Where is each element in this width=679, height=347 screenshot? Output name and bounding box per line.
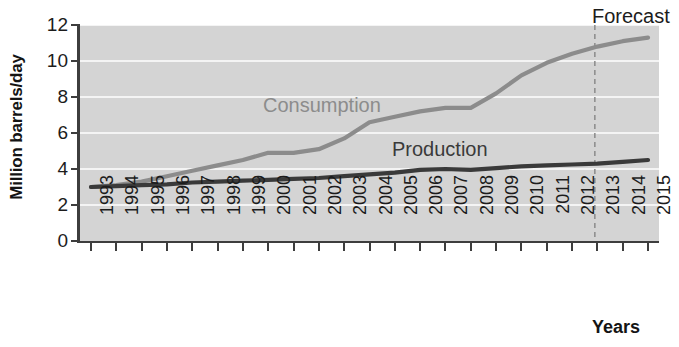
x-tick-mark [166, 243, 168, 251]
x-tick-label: 2002 [326, 175, 344, 255]
x-tick-label: 1993 [98, 175, 116, 255]
y-tick-label: 8 [44, 87, 68, 106]
x-tick-mark [444, 243, 446, 251]
x-tick-label: 1995 [149, 175, 167, 255]
x-tick-mark [369, 243, 371, 251]
x-tick-mark [191, 243, 193, 251]
x-tick-label: 2000 [275, 175, 293, 255]
x-tick-mark [90, 243, 92, 251]
x-tick-mark [217, 243, 219, 251]
x-tick-label: 2014 [630, 175, 648, 255]
x-tick-label: 2011 [554, 175, 572, 255]
x-tick-label: 2001 [301, 175, 319, 255]
x-tick-mark [267, 243, 269, 251]
x-tick-label: 1994 [123, 175, 141, 255]
x-tick-mark [318, 243, 320, 251]
x-tick-mark [242, 243, 244, 251]
x-tick-label: 2007 [452, 175, 470, 255]
y-tick-label: 4 [44, 159, 68, 178]
x-tick-mark [546, 243, 548, 251]
x-tick-mark [141, 243, 143, 251]
x-tick-mark [394, 243, 396, 251]
x-tick-label: 2004 [377, 175, 395, 255]
x-tick-label: 1998 [225, 175, 243, 255]
x-tick-label: 2006 [427, 175, 445, 255]
x-axis-title: Years [592, 317, 640, 338]
y-tick-label: 12 [44, 15, 68, 34]
x-tick-mark [571, 243, 573, 251]
x-tick-label: 2013 [604, 175, 622, 255]
x-tick-mark [622, 243, 624, 251]
consumption-series-label: Consumption [263, 94, 381, 117]
y-tick-label: 10 [44, 51, 68, 70]
y-tick-label: 6 [44, 123, 68, 142]
x-tick-label: 2008 [478, 175, 496, 255]
x-tick-label: 2015 [655, 175, 673, 255]
x-tick-mark [343, 243, 345, 251]
y-axis-title: Million barrels/day [4, 12, 30, 242]
oil-consumption-production-chart: Million barrels/day 024681012 1993199419… [0, 0, 679, 347]
y-tick-label: 0 [44, 231, 68, 250]
forecast-annotation-label: Forecast [592, 5, 670, 28]
x-tick-label: 2009 [503, 175, 521, 255]
x-tick-mark [293, 243, 295, 251]
x-tick-mark [596, 243, 598, 251]
x-tick-mark [115, 243, 117, 251]
x-tick-label: 1996 [174, 175, 192, 255]
y-axis-line [77, 24, 80, 243]
x-tick-mark [470, 243, 472, 251]
x-tick-label: 2003 [351, 175, 369, 255]
x-tick-mark [520, 243, 522, 251]
x-tick-label: 1999 [250, 175, 268, 255]
production-series-label: Production [392, 138, 488, 161]
x-tick-label: 2012 [579, 175, 597, 255]
x-tick-mark [647, 243, 649, 251]
x-tick-mark [495, 243, 497, 251]
y-tick-label: 2 [44, 195, 68, 214]
x-tick-label: 1997 [199, 175, 217, 255]
x-tick-label: 2005 [402, 175, 420, 255]
x-tick-mark [419, 243, 421, 251]
x-tick-label: 2010 [528, 175, 546, 255]
